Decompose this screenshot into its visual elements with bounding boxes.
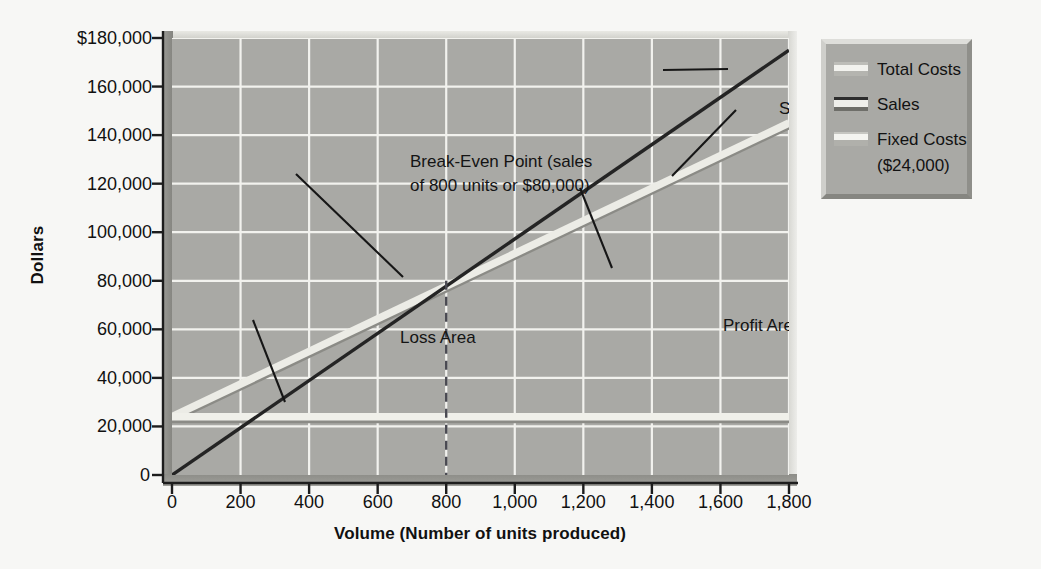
- legend-items: Total CostsSalesFixed Costs($24,000): [826, 44, 967, 194]
- y-tick-label: 140,000: [44, 125, 162, 146]
- total-costs-swatch: [834, 62, 868, 76]
- chart-legend: Total CostsSalesFixed Costs($24,000): [821, 39, 972, 199]
- legend-item-sales[interactable]: Sales: [826, 93, 967, 117]
- sales-swatch: [834, 97, 868, 111]
- x-axis-title: Volume (Number of units produced): [163, 524, 797, 544]
- frame-bevel-bottom: [163, 474, 797, 486]
- legend-item-label: Sales: [877, 93, 920, 117]
- x-tick-label: 0: [167, 492, 177, 513]
- leader-break-even: [296, 174, 403, 277]
- plot-frame: Break-Even Point (sales of 800 units or …: [163, 31, 797, 486]
- y-tick-label: 60,000: [44, 319, 162, 340]
- frame-bevel-right: [788, 31, 797, 486]
- y-axis-origin-label: 0: [140, 465, 150, 486]
- leader-profit-area: [580, 188, 612, 268]
- break-even-line-2: of 800 units or $80,000): [410, 174, 592, 198]
- y-tick-label: 40,000: [44, 367, 162, 388]
- x-tick-label: 1,400: [629, 492, 674, 513]
- leader-sales: [663, 69, 728, 70]
- x-tick-label: 200: [226, 492, 256, 513]
- x-tick-label: 600: [363, 492, 393, 513]
- y-tick-label: $180,000: [44, 28, 162, 49]
- y-tick-label: 80,000: [44, 270, 162, 291]
- plot-svg: [172, 38, 789, 475]
- y-tick-label: 20,000: [44, 416, 162, 437]
- y-tick-label: 120,000: [44, 173, 162, 194]
- annotation-sales-label: Sales: [779, 97, 789, 121]
- legend-item-fixed-costs[interactable]: Fixed Costs: [826, 128, 967, 152]
- legend-item-label: Fixed Costs: [877, 128, 967, 152]
- annotation-profit-area: Profit Area: [723, 314, 789, 338]
- legend-item-total-costs[interactable]: Total Costs: [826, 58, 967, 82]
- x-tick-label: 1,200: [561, 492, 606, 513]
- x-tick-label: 400: [294, 492, 324, 513]
- y-tick-label: 100,000: [44, 222, 162, 243]
- chart-figure: Dollars $180,000160,000140,000120,000100…: [0, 0, 1041, 569]
- y-tick-label: 160,000: [44, 76, 162, 97]
- x-tick-label: 1,000: [492, 492, 537, 513]
- fixed-costs-swatch: [834, 132, 868, 146]
- plot-area: Break-Even Point (sales of 800 units or …: [172, 38, 789, 475]
- annotation-loss-area: Loss Area: [400, 326, 476, 350]
- leader-loss-area: [253, 320, 285, 402]
- legend-item-label: Total Costs: [877, 58, 961, 82]
- series-line-sales: [172, 50, 789, 475]
- x-tick-label: 800: [431, 492, 461, 513]
- legend-item-sublabel: ($24,000): [826, 156, 967, 176]
- x-tick-label: 1,800: [766, 492, 811, 513]
- break-even-line-1: Break-Even Point (sales: [410, 150, 592, 174]
- annotation-break-even-point: Break-Even Point (sales of 800 units or …: [410, 150, 592, 198]
- x-axis-tick-labels: 02004006008001,0001,2001,4001,6001,800: [163, 492, 797, 518]
- x-tick-label: 1,600: [698, 492, 743, 513]
